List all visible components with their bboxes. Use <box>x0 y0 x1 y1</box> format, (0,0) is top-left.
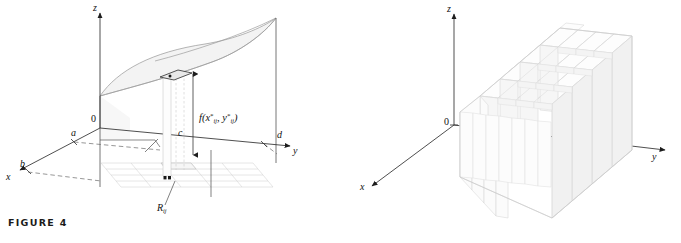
surface-left-wall <box>100 96 130 140</box>
surface-drop-lines <box>100 18 276 187</box>
figure5-x-axis-label: x <box>360 182 364 192</box>
figure-4-panel: z 0 x y a b c d f(x*ij, y*ij) Rij FIGURE… <box>0 0 340 243</box>
figure4-x-axis-label: x <box>6 172 10 182</box>
figure5-y-axis-label: y <box>652 152 656 162</box>
surface-z-equals-f <box>100 18 276 96</box>
figure-page: z 0 x y a b c d f(x*ij, y*ij) Rij FIGURE… <box>0 0 681 243</box>
riemann-box-stack <box>460 23 632 218</box>
figure5-z-axis-label: z <box>447 4 451 14</box>
rij-leader-line <box>165 181 175 205</box>
figure5-origin-label: 0 <box>444 117 449 127</box>
figure-5-panel: z 0 x y FIGURE 5 <box>340 0 681 243</box>
figure4-point-a-label: a <box>71 128 76 138</box>
sample-point-markers <box>164 176 172 179</box>
column-front-strips <box>460 112 551 187</box>
x-axis-figure5 <box>372 125 454 186</box>
figure4-rij-label: Rij <box>157 203 167 214</box>
x-axis <box>20 128 100 170</box>
figure4-point-b-label: b <box>20 159 25 169</box>
figure4-point-c-label: c <box>178 128 182 138</box>
figure4-origin-label: 0 <box>91 114 96 124</box>
height-label-close: ) <box>234 112 238 123</box>
rij-label-sub: ij <box>163 207 166 214</box>
figure4-point-d-label: d <box>277 130 282 140</box>
c-leader-line <box>145 139 158 152</box>
figure-4-caption: FIGURE 4 <box>8 217 68 228</box>
figure4-z-axis-label: z <box>93 3 97 13</box>
figure-4-graphic <box>0 0 340 243</box>
figure4-height-label: f(x*ij, y*ij) <box>199 113 237 124</box>
sample-column <box>160 70 192 176</box>
figure-5-graphic <box>340 0 681 243</box>
figure4-y-axis-label: y <box>293 146 297 156</box>
